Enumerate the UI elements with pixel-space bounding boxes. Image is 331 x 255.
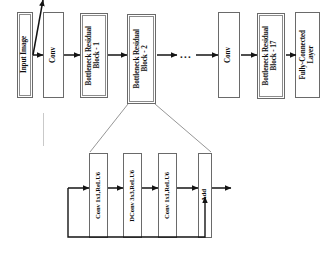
block-label: Bottleneck Residual Block - 17 (263, 26, 278, 85)
block-input-image: Input Image (17, 12, 33, 98)
expansion-guide-left (90, 104, 128, 152)
arrow-input-to-conv1 (33, 0, 43, 55)
block-bottleneck-1: Bottleneck Residual Block - 1 (80, 13, 108, 98)
block-label: Fully-Connected Layer (300, 30, 315, 80)
block-label: Conv 1x1,ReLU6 (164, 172, 171, 219)
block-conv-1: Conv (43, 12, 64, 98)
block-conv-2: Conv (218, 12, 240, 98)
block-label: Input Image (21, 36, 29, 73)
expansion-guide-right (155, 104, 211, 152)
block-label: Conv 1x1,ReLU6 (95, 172, 102, 219)
block-label: Conv (225, 47, 233, 63)
block-bottleneck-17: Bottleneck Residual Block - 17 (257, 13, 285, 99)
scan-artifact-line (43, 113, 44, 146)
block-add: Add (198, 153, 212, 238)
block-fully-connected-layer: Fully-Connected Layer (295, 12, 320, 98)
block-label: DConv 3x3,ReLU6 (129, 170, 136, 222)
block-conv-1x1-relu6-a: Conv 1x1,ReLU6 (89, 153, 108, 238)
architecture-diagram: Input Image Conv Bottleneck Residual Blo… (0, 0, 331, 255)
block-label: Conv (50, 47, 58, 63)
block-conv-1x1-relu6-b: Conv 1x1,ReLU6 (158, 153, 177, 238)
block-label: Bottleneck Residual Block - 2 (134, 29, 149, 88)
block-bottleneck-2: Bottleneck Residual Block - 2 (127, 14, 156, 104)
block-label: Add (201, 189, 208, 202)
block-label: Bottleneck Residual Block - 1 (86, 26, 101, 85)
block-dconv-3x3-relu6: DConv 3x3,ReLU6 (123, 153, 142, 238)
pipeline-ellipsis: ... (180, 49, 192, 60)
